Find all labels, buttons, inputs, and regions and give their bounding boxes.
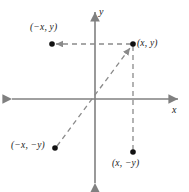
- point-marker-x-y: [130, 41, 136, 47]
- point-label-x-y: (x, y): [137, 38, 158, 48]
- point-label-neg-x-y: (−x, y): [30, 22, 57, 32]
- point-label-neg-x-neg-y: (−x, −y): [11, 140, 45, 150]
- diagonal-dashed-connector: [57, 48, 130, 146]
- point-label-x-neg-y: (x, −y): [112, 158, 139, 168]
- figure-canvas: [0, 0, 189, 192]
- coordinate-plane-figure: (−x, y) (x, y) (−x, −y) (x, −y) x y: [0, 0, 189, 192]
- point-marker-neg-x-y: [49, 41, 55, 47]
- x-axis-label: x: [172, 104, 176, 115]
- point-marker-x-neg-y: [130, 149, 136, 155]
- point-marker-neg-x-neg-y: [52, 145, 58, 151]
- y-axis-label: y: [99, 6, 103, 17]
